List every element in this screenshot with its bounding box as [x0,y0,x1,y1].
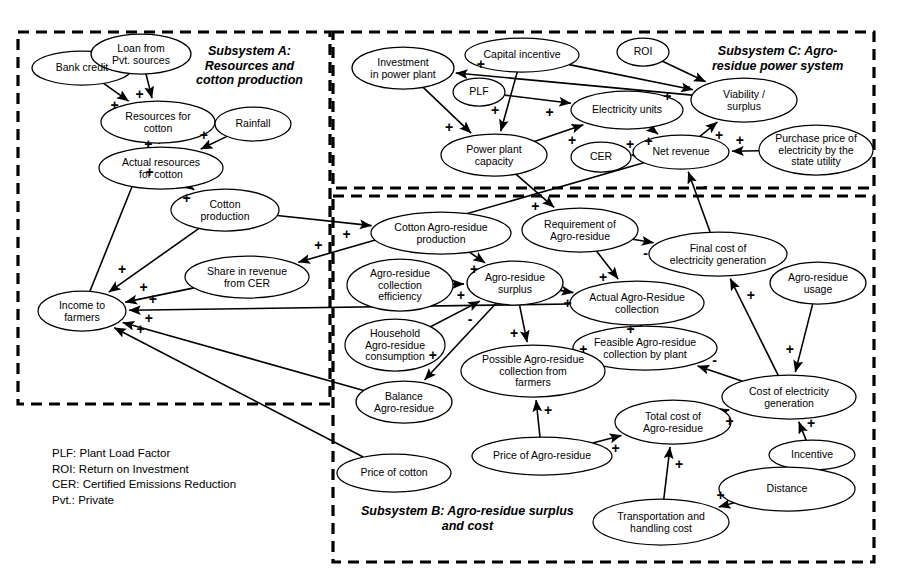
abbreviation-legend: PLF: Plant Load Factor ROI: Return on In… [52,446,236,508]
node-transportation_handling_cost [593,499,729,545]
edge-net_revenue-to-viability_surplus [700,122,718,136]
node-loan_pvt [91,34,191,74]
subsystem-title-B: Subsystem B: Agro-residue surplus and co… [361,504,574,533]
edge-incentive-to-cost_electricity_generation [799,422,806,440]
node-net_revenue [633,135,729,169]
node-agro_residue_usage [770,262,866,304]
node-actual_resources_cotton [99,147,223,189]
node-roi [617,38,669,66]
node-electricity_units [571,91,683,129]
edge-plf-to-electricity_units [504,95,571,103]
node-cotton_agro_residue_production [371,212,511,254]
node-rainfall [215,107,291,141]
node-incentive [769,440,855,470]
node-total_cost_agro_residue [615,400,731,444]
node-income_farmers [38,291,126,331]
edge-requirement_agro_residue-to-actual_agro_residue_collection [597,251,619,279]
edge-balance_agro_residue-to-income_farmers [123,323,364,391]
node-power_plant_capacity [441,134,547,176]
node-capital_incentive [465,38,579,72]
edge-roi-to-viability_surplus [663,61,706,82]
edge-agro_residue_surplus-to-actual_agro_residue_collection [560,290,573,292]
edge-rainfall-to-actual_resources_cotton [201,136,227,149]
subsystem-title-C: Subsystem C: Agro- residue power system [712,44,843,73]
node-purchase_price_electricity [759,125,873,175]
node-household_agro_residue_consumption [345,319,445,371]
node-agro_residue_collection_efficiency [347,259,453,311]
subsystem-box-A [18,32,330,404]
node-investment_power_plant [352,47,454,89]
edge-cost_electricity_generation-to-final_cost_electricity [730,279,778,376]
node-cost_electricity_generation [722,375,856,419]
edge-electricity_units-to-net_revenue [649,127,658,134]
node-plf [453,78,505,106]
node-viability_surplus [691,78,797,122]
node-cer [571,142,631,172]
edge-cotton_agro_residue_production-to-agro_residue_surplus [469,252,485,263]
node-possible_agro_residue_collection [461,345,605,397]
edge-transportation_handling_cost-to-total_cost_agro_residue [664,447,670,499]
edge-loan_pvt-to-resources_cotton [146,74,152,98]
node-agro_residue_surplus [467,261,563,305]
node-balance_agro_residue [356,381,452,423]
edge-cotton_production-to-cotton_agro_residue_production [277,216,372,226]
edge-agro_residue_surplus-to-possible_agro_residue_collection [520,305,528,342]
node-price_cotton [337,454,451,492]
edge-price_agro_residue-to-possible_agro_residue_collection [536,400,540,437]
edge-final_cost_electricity-to-net_revenue [688,172,710,232]
node-cotton_production [171,189,279,231]
node-distance [719,467,855,511]
edge-capital_incentive-to-power_plant_capacity [501,72,518,131]
edge-share_revenue_cer-to-income_farmers [125,288,194,302]
edge-requirement_agro_residue-to-final_cost_electricity [633,239,654,243]
edge-cost_electricity_generation-to-feasible_agro_residue_collection [698,366,743,381]
edge-price_agro_residue-to-total_cost_agro_residue [593,435,622,443]
edge-power_plant_capacity-to-electricity_units [534,125,583,142]
subsystem-title-A: Subsystem A: Resources and cotton produc… [196,44,303,88]
edge-bank_credit-to-resources_cotton [104,83,129,101]
node-price_agro_residue [472,437,612,475]
node-resources_cotton [101,101,215,143]
node-share_revenue_cer [185,256,309,298]
node-requirement_agro_residue [522,208,638,252]
node-final_cost_electricity [649,232,787,276]
edge-distance-to-transportation_handling_cost [719,503,734,507]
causal-loop-diagram: Bank creditLoan from Pvt. sourcesResourc… [0,0,905,582]
node-actual_agro_residue_collection [570,281,704,325]
edge-agro_residue_usage-to-cost_electricity_generation [795,304,812,372]
edge-cotton_production-to-income_farmers [109,228,199,292]
edge-price_cotton-to-income_farmers [114,328,363,457]
